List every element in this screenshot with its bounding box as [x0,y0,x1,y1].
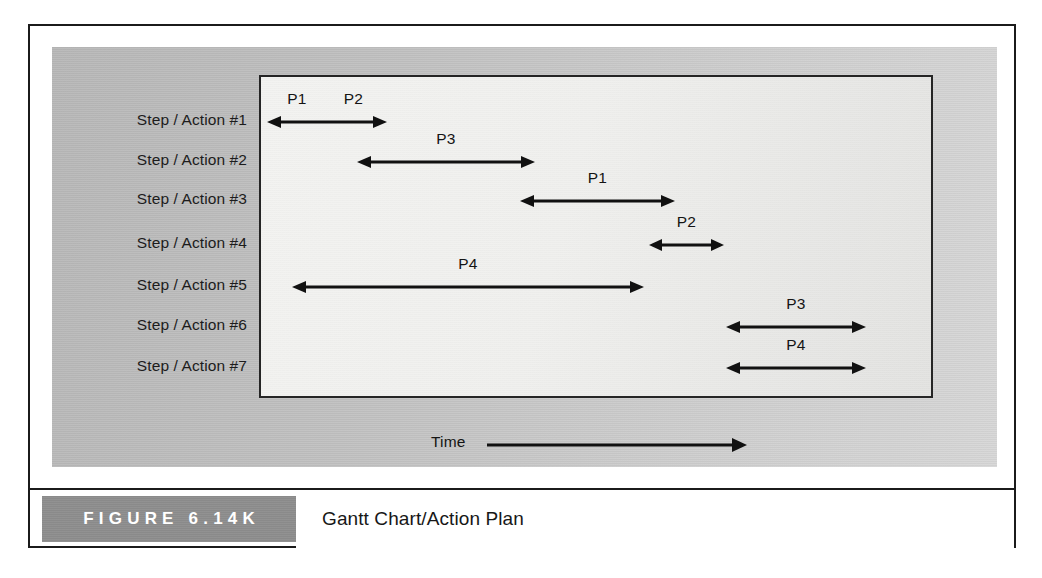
task-label-step-6-p3: P3 [786,295,805,313]
figure-number-label: FIGURE 6.14K [78,509,260,529]
figure-frame: Step / Action #1 Step / Action #2 Step /… [28,24,1016,548]
task-arrow-step-3: P1 [520,188,675,214]
time-axis-arrow-icon [487,437,747,453]
caption-title: Gantt Chart/Action Plan [322,508,524,530]
caption-bar: FIGURE 6.14K Gantt Chart/Action Plan [30,490,1014,548]
task-label-step-7-p4: P4 [786,336,805,354]
gantt-plot-area: P1 P2 P3 P1 [259,75,933,398]
row-label-step-3: Step / Action #3 [137,190,247,208]
double-arrow-icon [520,188,675,214]
time-axis-label: Time [431,433,466,451]
illustration-panel: Step / Action #1 Step / Action #2 Step /… [52,47,997,467]
double-arrow-icon [726,355,866,381]
time-axis: Time [259,430,933,458]
task-arrow-step-5: P4 [292,274,644,300]
row-label-step-6: Step / Action #6 [137,316,247,334]
task-arrow-step-4: P2 [649,232,724,258]
task-arrow-step-7: P4 [726,355,866,381]
row-label-step-1: Step / Action #1 [137,111,247,129]
task-label-step-4-p2: P2 [677,213,696,231]
task-label-step-3-p1: P1 [588,169,607,187]
task-arrow-step-2: P3 [357,149,535,175]
task-arrow-step-1: P1 P2 [267,109,387,135]
task-label-step-5-p4: P4 [458,255,477,273]
task-label-step-1-p2: P2 [344,90,363,108]
caption-title-wrap: Gantt Chart/Action Plan [296,490,1014,548]
double-arrow-icon [357,149,535,175]
task-label-step-1-p1: P1 [287,90,306,108]
task-label-step-2-p3: P3 [436,130,455,148]
row-label-step-7: Step / Action #7 [137,357,247,375]
double-arrow-icon [292,274,644,300]
row-label-step-2: Step / Action #2 [137,151,247,169]
row-label-column: Step / Action #1 Step / Action #2 Step /… [52,47,259,467]
figure-number-box: FIGURE 6.14K [42,496,296,542]
double-arrow-icon [649,232,724,258]
row-label-step-5: Step / Action #5 [137,276,247,294]
double-arrow-icon [267,109,387,135]
row-label-step-4: Step / Action #4 [137,234,247,252]
